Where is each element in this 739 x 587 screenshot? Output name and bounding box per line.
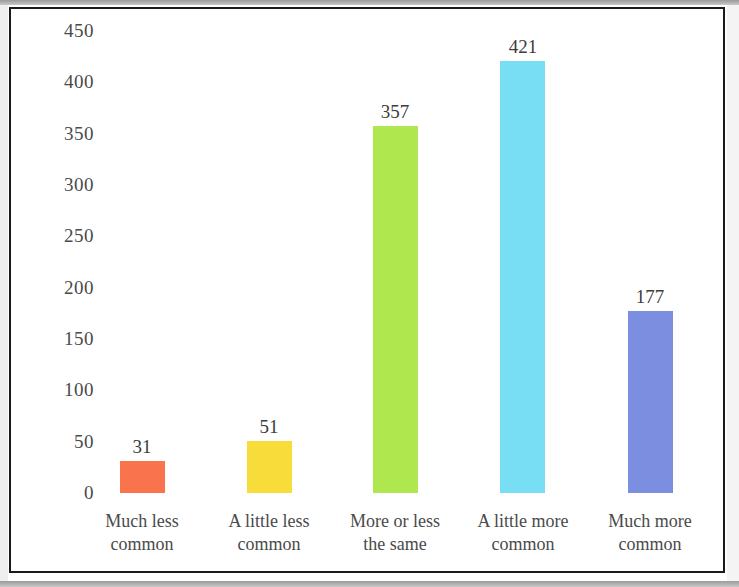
x-axis-category-line1: A little more <box>453 510 593 533</box>
x-axis-category-line1: Much more <box>580 510 720 533</box>
bar-chart: 05010015020025030035040045031Much lessco… <box>0 0 739 587</box>
bar-4 <box>500 61 545 493</box>
bar-3 <box>373 126 418 493</box>
bar-value-label: 357 <box>350 102 440 121</box>
y-axis-tick-label: 200 <box>0 278 94 297</box>
bar-value-label: 421 <box>478 37 568 56</box>
y-axis-tick-label: 100 <box>0 380 94 399</box>
y-axis-tick-label: 400 <box>0 72 94 91</box>
bar-value-label: 51 <box>224 417 314 436</box>
x-axis-category-line1: Much less <box>72 510 212 533</box>
x-axis-category-line2: the same <box>325 533 465 556</box>
bar-5 <box>628 311 673 493</box>
bar-2 <box>247 441 292 493</box>
x-axis-category-line1: More or less <box>325 510 465 533</box>
x-axis-category-label: A little morecommon <box>453 510 593 555</box>
x-axis-category-line2: common <box>199 533 339 556</box>
y-axis-tick-label: 300 <box>0 175 94 194</box>
x-axis-category-line2: common <box>453 533 593 556</box>
bar-value-label: 31 <box>97 437 187 456</box>
x-axis-category-label: A little lesscommon <box>199 510 339 555</box>
x-axis-category-label: Much lesscommon <box>72 510 212 555</box>
scanned-page: 05010015020025030035040045031Much lessco… <box>0 0 739 587</box>
x-axis-category-line2: common <box>72 533 212 556</box>
bar-value-label: 177 <box>605 287 695 306</box>
y-axis-tick-label: 450 <box>0 21 94 40</box>
x-axis-category-line1: A little less <box>199 510 339 533</box>
x-axis-category-line2: common <box>580 533 720 556</box>
y-axis-tick-label: 250 <box>0 226 94 245</box>
x-axis-category-label: Much morecommon <box>580 510 720 555</box>
y-axis-tick-label: 0 <box>0 483 94 502</box>
y-axis-tick-label: 350 <box>0 124 94 143</box>
y-axis-tick-label: 50 <box>0 432 94 451</box>
x-axis-category-label: More or lessthe same <box>325 510 465 555</box>
bar-1 <box>120 461 165 493</box>
y-axis-tick-label: 150 <box>0 329 94 348</box>
